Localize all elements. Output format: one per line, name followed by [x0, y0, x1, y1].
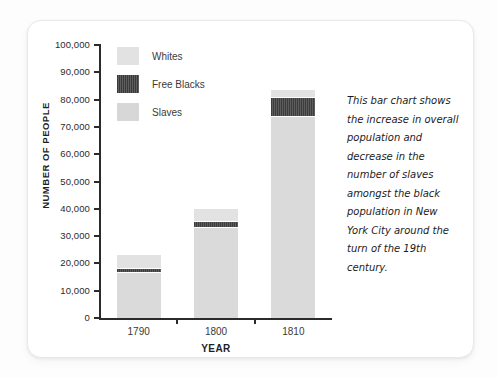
y-axis-tick-label: 0: [85, 312, 90, 323]
x-axis-tick-label: 1800: [186, 326, 246, 337]
legend-swatch-whites-icon: [117, 47, 139, 65]
legend-label-slaves: Slaves: [152, 107, 182, 118]
chart-page: 010,00020,00030,00040,00050,00060,00070,…: [0, 0, 497, 377]
bar-1790[interactable]: [117, 255, 161, 318]
legend-swatch-free-blacks-icon: [117, 75, 139, 93]
x-axis-title: YEAR: [100, 343, 332, 354]
legend-item-free-blacks: Free Blacks: [117, 70, 205, 98]
bar-1800[interactable]: [194, 209, 238, 318]
x-axis-tick-label: 1810: [263, 326, 323, 337]
bar-segment-slaves-1810: [271, 117, 315, 318]
legend-item-slaves: Slaves: [117, 98, 205, 126]
y-axis-tick-label: 30,000: [60, 230, 90, 241]
bar-segment-whites-1800: [194, 209, 238, 221]
bar-segment-slaves-1790: [117, 273, 161, 318]
bar-segment-freeblacks-1800: [194, 221, 238, 228]
chart-legend: Whites Free Blacks Slaves: [117, 42, 205, 126]
legend-label-whites: Whites: [152, 51, 183, 62]
y-axis-tick-label: 100,000: [55, 39, 90, 50]
bar-segment-whites-1810: [271, 90, 315, 97]
x-axis-tick: [254, 318, 256, 324]
y-axis-tick-label: 60,000: [60, 148, 90, 159]
x-axis-line: [99, 318, 332, 320]
bar-segment-whites-1790: [117, 255, 161, 267]
y-axis-tick-label: 40,000: [60, 203, 90, 214]
legend-swatch-slaves-icon: [117, 103, 139, 121]
y-axis-tick-label: 90,000: [60, 66, 90, 77]
chart-annotation: This bar chart shows the increase in ove…: [347, 92, 459, 277]
bar-segment-freeblacks-1790: [117, 268, 161, 273]
y-axis-tick-label: 80,000: [60, 94, 90, 105]
x-axis-tick: [176, 318, 178, 324]
legend-label-free-blacks: Free Blacks: [152, 79, 205, 90]
bar-segment-freeblacks-1810: [271, 97, 315, 117]
y-axis-title: NUMBER OF PEOPLE: [40, 81, 51, 231]
y-axis-tick-label: 10,000: [60, 285, 90, 296]
y-axis-tick-label: 70,000: [60, 121, 90, 132]
x-axis-tick-label: 1790: [109, 326, 169, 337]
legend-item-whites: Whites: [117, 42, 205, 70]
y-axis-tick-label: 50,000: [60, 176, 90, 187]
bar-1810[interactable]: [271, 90, 315, 318]
y-axis-tick-label: 20,000: [60, 257, 90, 268]
bar-segment-slaves-1800: [194, 228, 238, 318]
